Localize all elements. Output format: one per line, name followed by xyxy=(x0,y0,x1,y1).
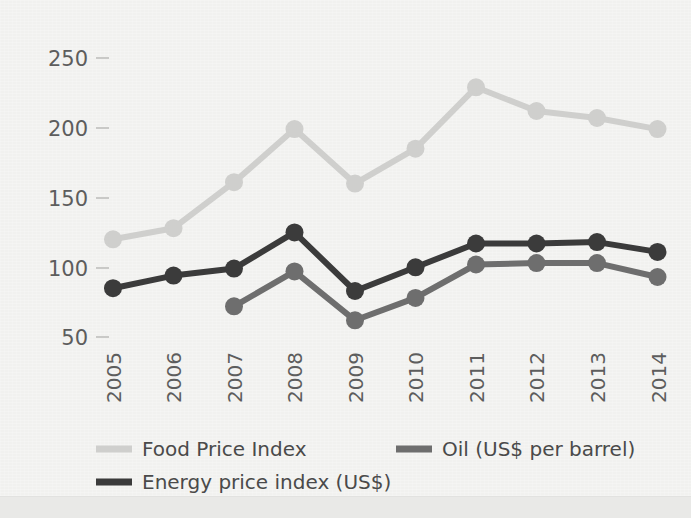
point-oil-us-per-barrel-2010 xyxy=(407,289,425,307)
point-food-price-index-2005 xyxy=(104,230,122,248)
point-energy-price-index-us-2013 xyxy=(588,233,606,251)
x-tick-label-2014: 2014 xyxy=(647,352,671,403)
y-axis-ticks xyxy=(96,58,109,337)
point-energy-price-index-us-2014 xyxy=(649,243,667,261)
point-energy-price-index-us-2005 xyxy=(104,279,122,297)
y-tick-label-50: 50 xyxy=(61,326,88,350)
point-oil-us-per-barrel-2014 xyxy=(649,268,667,286)
x-tick-label-2006: 2006 xyxy=(162,352,186,403)
series-food-price-index xyxy=(104,78,667,248)
x-tick-label-2013: 2013 xyxy=(586,352,610,403)
x-tick-label-2005: 2005 xyxy=(102,352,126,403)
point-oil-us-per-barrel-2012 xyxy=(528,254,546,272)
chart-legend: Food Price Index Oil (US$ per barrel) En… xyxy=(96,437,635,494)
series-oil-us-per-barrel xyxy=(225,254,667,329)
x-tick-label-2007: 2007 xyxy=(223,352,247,403)
x-tick-label-2008: 2008 xyxy=(283,352,307,403)
y-tick-label-250: 250 xyxy=(48,47,88,71)
point-food-price-index-2008 xyxy=(286,120,304,138)
x-tick-label-2009: 2009 xyxy=(344,352,368,403)
point-energy-price-index-us-2006 xyxy=(165,267,183,285)
point-oil-us-per-barrel-2007 xyxy=(225,297,243,315)
point-food-price-index-2006 xyxy=(165,219,183,237)
y-tick-label-200: 200 xyxy=(48,117,88,141)
point-food-price-index-2013 xyxy=(588,109,606,127)
point-energy-price-index-us-2011 xyxy=(467,235,485,253)
point-energy-price-index-us-2010 xyxy=(407,258,425,276)
y-tick-label-100: 100 xyxy=(48,257,88,281)
point-food-price-index-2012 xyxy=(528,102,546,120)
legend-label-oil: Oil (US$ per barrel) xyxy=(442,437,635,461)
x-axis-labels: 2005 2006 2007 2008 2009 2010 2011 2012 … xyxy=(102,352,671,403)
x-tick-label-2012: 2012 xyxy=(525,352,549,403)
x-tick-label-2011: 2011 xyxy=(465,352,489,403)
point-food-price-index-2007 xyxy=(225,173,243,191)
data-series-layer xyxy=(104,78,667,329)
point-energy-price-index-us-2012 xyxy=(528,235,546,253)
point-oil-us-per-barrel-2013 xyxy=(588,254,606,272)
legend-label-energy-price-index: Energy price index (US$) xyxy=(142,470,391,494)
point-oil-us-per-barrel-2011 xyxy=(467,256,485,274)
point-oil-us-per-barrel-2009 xyxy=(346,311,364,329)
point-oil-us-per-barrel-2008 xyxy=(286,262,304,280)
legend-label-food-price-index: Food Price Index xyxy=(142,437,307,461)
y-tick-label-150: 150 xyxy=(48,187,88,211)
point-food-price-index-2011 xyxy=(467,78,485,96)
x-tick-label-2010: 2010 xyxy=(404,352,428,403)
point-food-price-index-2010 xyxy=(407,140,425,158)
point-food-price-index-2014 xyxy=(649,120,667,138)
point-food-price-index-2009 xyxy=(346,175,364,193)
y-axis-labels: 250 200 150 100 50 xyxy=(48,47,88,350)
point-energy-price-index-us-2008 xyxy=(286,223,304,241)
point-energy-price-index-us-2009 xyxy=(346,282,364,300)
line-food-price-index xyxy=(113,87,658,239)
point-energy-price-index-us-2007 xyxy=(225,260,243,278)
